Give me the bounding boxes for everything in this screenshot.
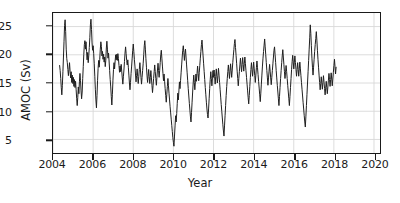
x-axis-label: Year (0, 176, 400, 190)
data-series-line (60, 19, 336, 146)
x-tick-mark (133, 154, 134, 160)
y-axis-label: AMOC (Sv) (19, 20, 33, 160)
y-tick-mark (46, 25, 52, 26)
x-tick-mark (254, 154, 255, 160)
y-tick-label: 20 (0, 48, 12, 61)
y-tick-label: 5 (0, 134, 12, 147)
x-tick-mark (173, 154, 174, 160)
chart-figure: 510152025 200420062008201020122014201620… (0, 0, 400, 203)
plot-area (52, 12, 381, 154)
y-tick-label: 10 (0, 105, 12, 118)
y-tick-mark (46, 111, 52, 112)
y-tick-mark (46, 140, 52, 141)
x-tick-mark (294, 154, 295, 160)
x-tick-mark (213, 154, 214, 160)
y-tick-mark (46, 54, 52, 55)
x-tick-mark (375, 154, 376, 160)
y-tick-label: 15 (0, 77, 12, 90)
series-layer (53, 13, 380, 153)
y-tick-mark (46, 82, 52, 83)
y-tick-label: 25 (0, 19, 12, 32)
x-tick-mark (52, 154, 53, 160)
x-tick-mark (335, 154, 336, 160)
x-tick-mark (92, 154, 93, 160)
